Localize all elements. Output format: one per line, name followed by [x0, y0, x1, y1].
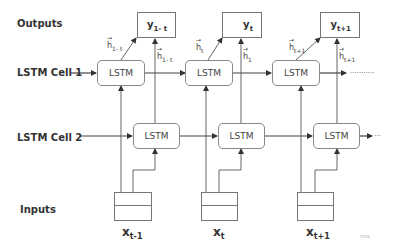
input-box-t-minus-1 — [114, 192, 152, 221]
output-subscript: t — [250, 25, 253, 33]
hidden-label-right-2: ht+1 — [339, 52, 355, 63]
lstm-cell2-unit-2: LSTM — [313, 123, 360, 149]
lstm-cell1-unit-1: LSTM — [185, 60, 233, 86]
continuation-dots-cell1: ........... — [350, 66, 374, 75]
row-label-inputs: Inputs — [20, 204, 56, 215]
input-box-t-plus-1 — [297, 192, 334, 221]
input-box-t — [201, 192, 238, 221]
hidden-label-left-2: ht+1 — [289, 43, 305, 54]
input-box-divider — [298, 205, 333, 206]
input-box-divider — [115, 205, 151, 206]
row-label-outputs: Outputs — [17, 18, 62, 29]
output-subscript: t+1 — [337, 25, 351, 33]
hidden-label-right-1: h1 — [243, 52, 252, 63]
output-box-t-minus-1: y1- t — [137, 12, 176, 38]
row-label-lstm-cell-1: LSTM Cell 1 — [17, 67, 82, 78]
lstm-cell1-unit-0: LSTM — [97, 60, 145, 86]
output-box-t: yt — [222, 12, 262, 38]
input-label-t-plus-1: xt+1 — [306, 225, 330, 241]
hidden-label-right-0: h1- t — [157, 52, 172, 63]
continuation-dots-cell2: ... — [374, 129, 381, 138]
output-subscript: 1- t — [153, 25, 167, 33]
input-label-t-minus-1: xt-1 — [122, 225, 142, 241]
lstm-cell2-unit-1: LSTM — [218, 123, 265, 149]
hidden-label-left-1: ht — [196, 43, 203, 54]
input-label-t: xt — [213, 225, 225, 241]
output-box-t-plus-1: yt+1 — [320, 12, 360, 38]
row-label-lstm-cell-2: LSTM Cell 2 — [17, 132, 82, 143]
hidden-label-left-0: h1- t — [107, 41, 122, 52]
watermark: mxa — [360, 233, 369, 239]
lstm-cell2-unit-0: LSTM — [133, 123, 180, 149]
input-box-divider — [202, 205, 237, 206]
lstm-cell1-unit-2: LSTM — [272, 60, 320, 86]
